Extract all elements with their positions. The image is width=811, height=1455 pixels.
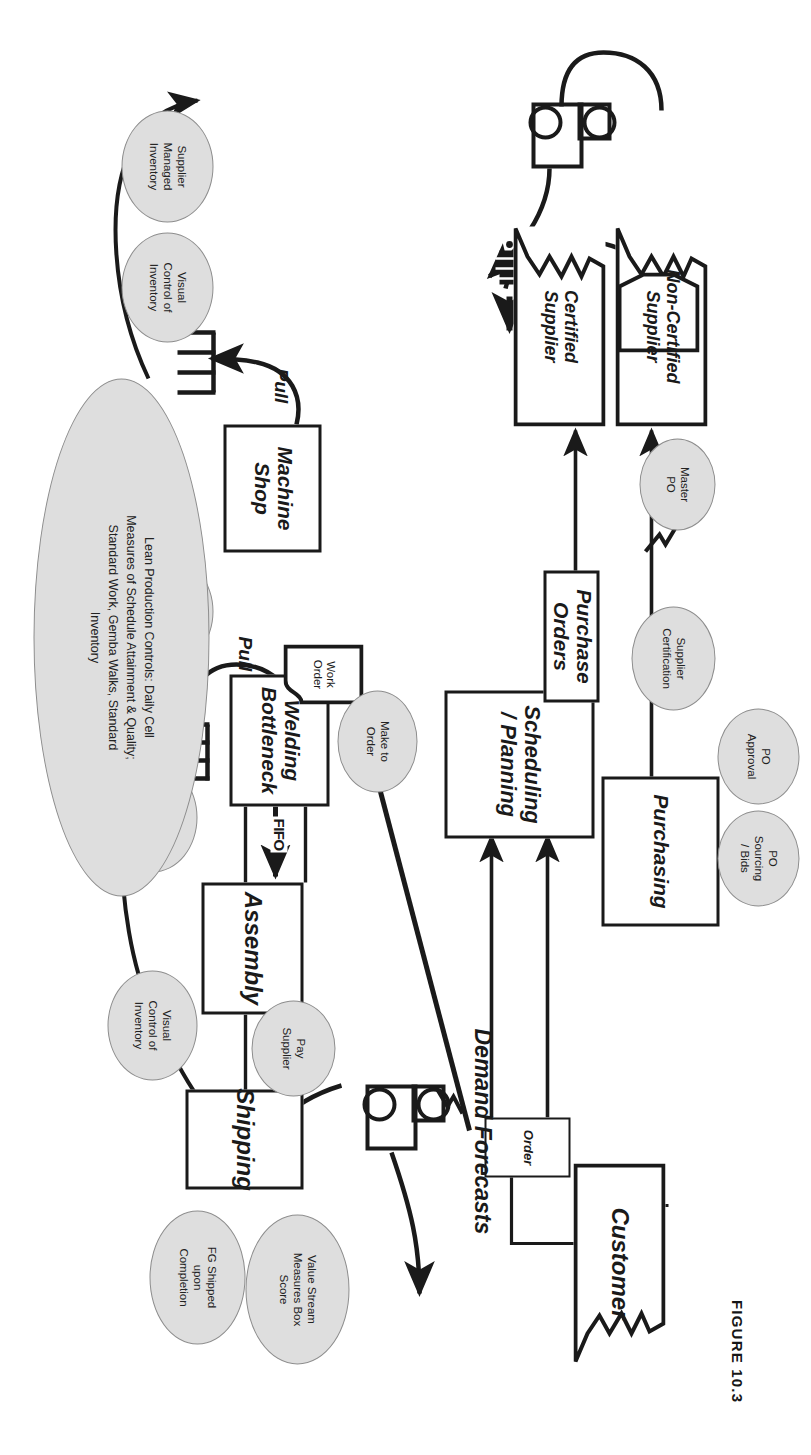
figure-caption: FIGURE 10.3 [729, 1300, 746, 1403]
callout-po-approval: PO Approval [717, 708, 799, 804]
callout-pay-supplier: Pay Supplier [251, 1000, 335, 1096]
callout-label: Supplier Managed Inventory [146, 142, 188, 190]
data-tag-label: Work Order [310, 659, 335, 688]
data-tag-work-order[interactable]: Work Order [283, 644, 363, 704]
callout-fg-shipped: FG Shipped upon Completion [149, 1210, 245, 1344]
process-box-label: Shipping [231, 1088, 257, 1191]
process-box-assembly[interactable]: Assembly [201, 882, 303, 1014]
process-box-purchasing[interactable]: Purchasing [601, 776, 719, 926]
process-box-label: Purchase Orders [548, 573, 593, 699]
data-tag-order[interactable]: Order [484, 1117, 570, 1177]
callout-supplier-certification: Supplier Certification [631, 606, 715, 710]
callout-po-sourcing-bids: PO Sourcing / Bids [717, 810, 799, 906]
callout-label: Pay Supplier [279, 1027, 307, 1069]
truck-supplier-glyph [530, 104, 614, 166]
process-box-label: Purchasing [649, 794, 672, 908]
callout-lean-production-controls: Lean Production Controls: Daily Cell Mea… [33, 378, 209, 896]
process-box-label: Machine Shop [249, 446, 294, 530]
callout-label: Lean Production Controls: Daily Cell Mea… [85, 515, 158, 760]
callout-label: PO Approval [744, 733, 772, 778]
data-tag-label: Order [520, 1129, 534, 1164]
callout-label: Value Stream Measures Box Score [276, 1252, 318, 1326]
process-box-label: Scheduling / Planning [495, 705, 543, 824]
callout-label: PO Sourcing / Bids [737, 835, 779, 880]
callout-supplier-managed-inventory: Supplier Managed Inventory [121, 110, 213, 222]
callout-label: Make to Order [363, 721, 391, 762]
external-entity-customer[interactable]: Customer [573, 1163, 665, 1363]
external-entity-label: Customer [606, 1207, 632, 1319]
callout-label: FG Shipped upon Completion [176, 1246, 218, 1307]
callout-label: Visual Control of Inventory [131, 1000, 173, 1050]
process-box-purchase-orders[interactable]: Purchase Orders [543, 570, 599, 702]
callout-visual-control-4: Visual Control of Inventory [121, 232, 213, 342]
free-label-fifo-welding-assembly: FIFO [270, 816, 287, 852]
external-entity-label: Certified Supplier [539, 289, 579, 362]
process-box-shipping[interactable]: Shipping [185, 1089, 303, 1189]
free-label-pull-machine-shop: Pull [269, 368, 291, 403]
callout-label: Visual Control of Inventory [146, 262, 188, 312]
value-stream-map-canvas: Customer Non-Certified Supplier Certifie… [0, 0, 811, 1455]
callout-master-po: Master PO [639, 438, 715, 530]
process-box-label: Assembly [239, 891, 265, 1004]
free-label-demand-forecasts: Demand Forecasts [468, 1028, 495, 1234]
kanban-machine-glyph [177, 332, 215, 392]
callout-visual-control-1: Visual Control of Inventory [107, 970, 197, 1080]
process-box-scheduling-planning[interactable]: Scheduling / Planning [444, 690, 594, 838]
external-entity-label: Non-Certified Supplier [641, 269, 681, 383]
external-entity-certified-supplier[interactable]: Certified Supplier [513, 226, 605, 426]
callout-value-stream-measures: Value Stream Measures Box Score [245, 1214, 349, 1364]
truck-to-customer-glyph [364, 1086, 448, 1148]
process-box-machine-shop[interactable]: Machine Shop [223, 424, 321, 552]
callout-label: Master PO [663, 466, 691, 501]
diagram-rotation-stage: Customer Non-Certified Supplier Certifie… [0, 0, 811, 1455]
callout-make-to-order: Make to Order [337, 690, 417, 792]
free-label-pull-welding: Pull [233, 636, 255, 671]
callout-label: Supplier Certification [659, 628, 687, 689]
